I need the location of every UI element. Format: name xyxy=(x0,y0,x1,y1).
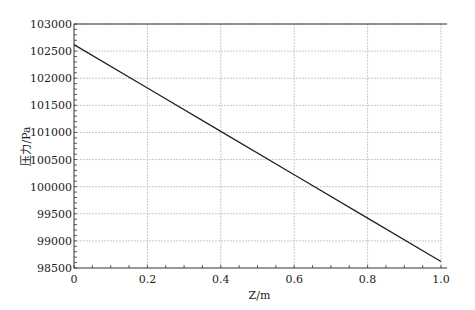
y-tick-label: 99500 xyxy=(37,208,72,221)
data-series xyxy=(74,45,441,262)
y-tick-label: 102000 xyxy=(30,72,72,85)
y-tick-label: 102500 xyxy=(30,45,72,58)
x-tick-label: 0.2 xyxy=(139,273,157,286)
y-axis-title: 压力/Pa xyxy=(20,126,33,166)
y-tick-label: 101000 xyxy=(30,126,72,139)
pressure-line xyxy=(74,45,441,262)
x-tick-label: 0.4 xyxy=(212,273,230,286)
y-tick-label: 100000 xyxy=(30,181,72,194)
y-axis-ticks: 9850099000995001000001005001010001015001… xyxy=(30,18,77,275)
grid-lines xyxy=(74,24,441,268)
pressure-line-chart: 00.20.40.60.81.0 98500990009950010000010… xyxy=(0,0,475,310)
y-tick-label: 100500 xyxy=(30,154,72,167)
x-tick-label: 1.0 xyxy=(432,273,450,286)
x-tick-label: 0.8 xyxy=(359,273,377,286)
y-tick-label: 103000 xyxy=(30,18,72,31)
x-tick-label: 0.6 xyxy=(285,273,303,286)
y-tick-label: 101500 xyxy=(30,99,72,112)
y-tick-label: 99000 xyxy=(37,235,72,248)
y-tick-label: 98500 xyxy=(37,262,72,275)
x-axis-title: Z/m xyxy=(249,289,271,302)
